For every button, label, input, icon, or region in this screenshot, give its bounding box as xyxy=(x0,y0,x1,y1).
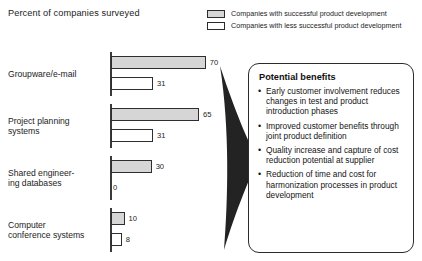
category-label-line: ing databases xyxy=(8,178,106,188)
bar-value-less-successful: 31 xyxy=(157,131,165,140)
bar-successful xyxy=(111,56,206,69)
category-label-line: Groupware/e-mail xyxy=(8,69,106,79)
bar-row-less-successful: 8 xyxy=(111,233,130,246)
category-label-line: Project planning xyxy=(8,116,106,126)
bar-value-successful: 30 xyxy=(156,162,164,171)
category-label-line: Computer xyxy=(8,220,106,230)
legend-item-successful: Companies with successful product develo… xyxy=(207,9,402,18)
bullet-icon: • xyxy=(258,169,266,200)
benefit-text: Quality increase and capture of cost red… xyxy=(266,145,405,165)
bar-row-successful: 10 xyxy=(111,212,137,225)
legend-item-less-successful: Companies with less successful product d… xyxy=(207,21,402,30)
bullet-icon: • xyxy=(258,121,266,141)
legend-swatch-filled-icon xyxy=(207,10,225,18)
benefit-item: • Improved customer benefits through joi… xyxy=(258,121,405,141)
panel-title: Potential benefits xyxy=(259,72,405,82)
bar-value-less-successful: 8 xyxy=(126,235,130,244)
bullet-icon: • xyxy=(258,145,266,165)
bar-row-less-successful: 31 xyxy=(111,129,165,142)
benefit-text: Improved customer benefits through joint… xyxy=(266,121,405,141)
bar-value-successful: 65 xyxy=(203,110,211,119)
bar-less-successful xyxy=(111,77,153,90)
bar-successful xyxy=(111,108,199,121)
category-label-computer-conference: Computer conference systems xyxy=(8,220,106,241)
category-label-project-planning: Project planning systems xyxy=(8,116,106,137)
bar-group-shared-engineering: Shared engineer- ing databases 30 0 xyxy=(0,156,240,200)
bar-group-groupware: Groupware/e-mail 70 31 xyxy=(0,52,240,96)
category-label-line: systems xyxy=(8,126,106,136)
bar-successful xyxy=(111,212,125,225)
legend-swatch-empty-icon xyxy=(207,22,225,30)
bar-value-less-successful: 0 xyxy=(113,183,117,192)
category-label-groupware: Groupware/e-mail xyxy=(8,69,106,79)
potential-benefits-panel: Potential benefits • Early customer invo… xyxy=(248,63,414,253)
category-label-shared-engineering: Shared engineer- ing databases xyxy=(8,168,106,189)
legend-label-successful: Companies with successful product develo… xyxy=(231,9,387,18)
bar-chart-plot: Groupware/e-mail 70 31 Project planning … xyxy=(0,52,240,261)
benefit-item: • Reduction of time and cost for harmoni… xyxy=(258,169,405,200)
bar-row-successful: 30 xyxy=(111,160,164,173)
bar-value-less-successful: 31 xyxy=(157,79,165,88)
category-label-line: Shared engineer- xyxy=(8,168,106,178)
page-title: Percent of companies surveyed xyxy=(8,8,140,18)
bar-value-successful: 10 xyxy=(129,214,137,223)
legend-label-less-successful: Companies with less successful product d… xyxy=(231,21,402,30)
chart-figure: Percent of companies surveyed Companies … xyxy=(0,0,422,261)
benefit-item: • Quality increase and capture of cost r… xyxy=(258,145,405,165)
bar-less-successful xyxy=(111,233,122,246)
category-label-line: conference systems xyxy=(8,230,106,240)
chart-legend: Companies with successful product develo… xyxy=(207,9,402,30)
bar-successful xyxy=(111,160,152,173)
benefit-item: • Early customer involvement reduces cha… xyxy=(258,86,405,117)
bullet-icon: • xyxy=(258,86,266,117)
benefit-text: Reduction of time and cost for harmoniza… xyxy=(266,169,405,200)
benefit-text: Early customer involvement reduces chang… xyxy=(266,86,405,117)
bar-group-project-planning: Project planning systems 65 31 xyxy=(0,104,240,148)
bar-row-successful: 65 xyxy=(111,108,212,121)
bar-less-successful xyxy=(111,129,153,142)
bar-row-less-successful: 31 xyxy=(111,77,165,90)
bar-row-less-successful: 0 xyxy=(111,181,117,194)
bar-group-computer-conference: Computer conference systems 10 8 xyxy=(0,208,240,252)
bar-row-successful: 70 xyxy=(111,56,218,69)
